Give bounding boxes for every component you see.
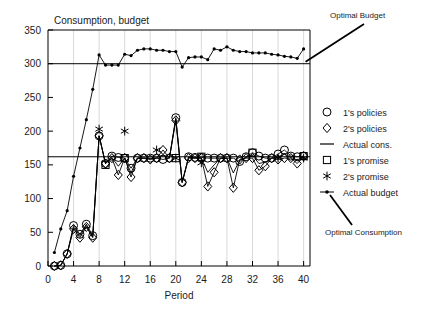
- axis-y-tick-label: 100: [24, 193, 41, 204]
- axis-x-tick-label: 32: [247, 274, 259, 285]
- axis-y-tick-label: 0: [35, 261, 41, 272]
- marker-dot: [72, 175, 75, 178]
- marker-dot: [161, 49, 164, 52]
- marker-dot: [289, 55, 292, 58]
- axis-x-tick-label: 40: [298, 274, 310, 285]
- marker-dot: [206, 58, 209, 61]
- marker-dot: [174, 50, 177, 53]
- marker-dot: [200, 55, 203, 58]
- marker-dot: [213, 47, 216, 50]
- marker-dot: [219, 49, 222, 52]
- marker-dot: [66, 209, 69, 212]
- marker-dot: [85, 118, 88, 121]
- marker-dot: [270, 53, 273, 56]
- legend-item-label: 2's policies: [343, 124, 387, 134]
- chart-title: Consumption, budget: [54, 15, 149, 26]
- marker-dot: [168, 50, 171, 53]
- marker-dot: [136, 49, 139, 52]
- axis-x-label: Period: [165, 290, 194, 301]
- axis-y-tick-label: 300: [24, 58, 41, 69]
- axis-x-tick-label: 0: [45, 274, 51, 285]
- legend-item-label: 2's promise: [343, 172, 389, 182]
- chart-figure: 0501001502002503003500481216202428323640…: [0, 0, 427, 327]
- marker-dot: [181, 65, 184, 68]
- marker-dot: [232, 49, 235, 52]
- marker-dot: [187, 56, 190, 59]
- axis-x-tick-label: 36: [272, 274, 284, 285]
- marker-dot: [283, 55, 286, 58]
- marker-dot: [104, 63, 107, 66]
- marker-dot: [59, 227, 62, 230]
- marker-dot: [296, 57, 299, 60]
- marker-dot: [251, 51, 254, 54]
- marker-dot: [302, 47, 305, 50]
- legend-item-label: 1's promise: [343, 156, 389, 166]
- marker-dot: [193, 55, 196, 58]
- marker-dot: [149, 47, 152, 50]
- optimal-budget-annotation: Optimal Budget: [330, 11, 386, 20]
- marker-dot: [123, 53, 126, 56]
- marker-dot: [117, 63, 120, 66]
- axis-y-tick-label: 250: [24, 92, 41, 103]
- marker-dot: [238, 50, 241, 53]
- axis-x-tick-label: 20: [170, 274, 182, 285]
- axis-x-tick-label: 12: [119, 274, 131, 285]
- marker-dot: [53, 251, 56, 254]
- marker-dot: [142, 47, 145, 50]
- legend-item-label: 1's policies: [343, 108, 387, 118]
- marker-dot: [98, 53, 101, 56]
- legend-marker-dot: [325, 190, 329, 194]
- legend-item-label: Actual cons.: [343, 140, 392, 150]
- marker-dot: [225, 45, 228, 48]
- axis-x-tick-label: 24: [196, 274, 208, 285]
- axis-y-tick-label: 50: [30, 227, 42, 238]
- marker-dot: [264, 51, 267, 54]
- marker-dot: [110, 63, 113, 66]
- axis-x-tick-label: 28: [221, 274, 233, 285]
- marker-dot: [78, 146, 81, 149]
- axis-y-tick-label: 200: [24, 126, 41, 137]
- axis-x-tick-label: 4: [71, 274, 77, 285]
- marker-dot: [155, 49, 158, 52]
- axis-x-tick-label: 8: [96, 274, 102, 285]
- legend-item-label: Actual budget: [343, 188, 399, 198]
- marker-dot: [244, 50, 247, 53]
- marker-dot: [276, 53, 279, 56]
- axis-x-tick-label: 16: [145, 274, 157, 285]
- marker-dot: [129, 54, 132, 57]
- axis-y-tick-label: 150: [24, 159, 41, 170]
- chart-canvas: 0501001502002503003500481216202428323640…: [0, 0, 427, 327]
- marker-dot: [257, 51, 260, 54]
- axis-y-tick-label: 350: [24, 25, 41, 36]
- marker-dot: [91, 88, 94, 91]
- optimal-consumption-annotation: Optimal Consumption: [325, 228, 402, 237]
